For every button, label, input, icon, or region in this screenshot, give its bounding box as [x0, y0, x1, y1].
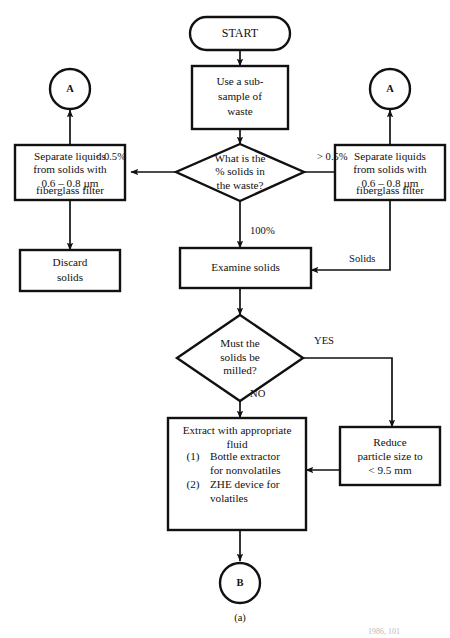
separate-right-line-2: from solids with: [353, 163, 427, 175]
node-extract[interactable]: Extract with appropriate fluid (1) Bottl…: [168, 418, 306, 530]
extract-heading-line-1: Extract with appropriate: [183, 424, 292, 436]
separate-left-line-4: fiberglass filter: [36, 184, 104, 196]
extract-item-1-index: (1): [186, 450, 199, 463]
separate-left-line-2: from solids with: [33, 163, 107, 175]
reduce-line-1: Reduce: [373, 436, 407, 448]
subsample-line-1: Use a sub-: [216, 75, 263, 87]
separate-right-line-4: fiberglass filter: [356, 184, 424, 196]
edge-label-hundred: 100%: [250, 225, 275, 236]
extract-item-1-line-2: for nonvolatiles: [210, 464, 281, 476]
decision-solids-line-3: the waste?: [217, 179, 264, 191]
decision-milled-line-1: Must the: [220, 337, 260, 349]
reduce-line-2: particle size to: [357, 450, 423, 462]
decision-milled-line-3: milled?: [223, 364, 257, 376]
extract-heading-line-2: fluid: [226, 438, 248, 450]
node-separate-right[interactable]: Separate liquids from solids with 0.6 – …: [335, 145, 445, 200]
node-discard[interactable]: Discard solids: [20, 250, 120, 291]
extract-item-1-line-1: Bottle extractor: [210, 450, 280, 462]
node-decision-solids[interactable]: What is the % solids in the waste?: [176, 144, 304, 201]
edge-label-no: NO: [250, 388, 266, 399]
reduce-line-3: < 9.5 mm: [368, 464, 412, 476]
node-subsample[interactable]: Use a sub- sample of waste: [192, 66, 288, 129]
node-connector-bottom[interactable]: B: [220, 563, 260, 603]
extract-item-2-line-2: volatiles: [210, 492, 248, 504]
extract-item-2-line-1: ZHE device for: [210, 478, 280, 490]
node-examine[interactable]: Examine solids: [180, 248, 311, 288]
node-reduce[interactable]: Reduce particle size to < 9.5 mm: [340, 427, 440, 485]
edge-label-solids: Solids: [349, 253, 376, 264]
extract-item-2-index: (2): [186, 478, 199, 491]
subsample-line-2: sample of: [218, 90, 262, 102]
flowchart-figure: START Use a sub- sample of waste A A Sep…: [0, 0, 450, 638]
edge-decision-milled-yes-to-reduce: [303, 358, 392, 427]
discard-line-1: Discard: [53, 256, 88, 268]
examine-label: Examine solids: [211, 261, 280, 273]
node-start[interactable]: START: [190, 17, 290, 50]
node-connector-left[interactable]: A: [50, 69, 90, 109]
node-connector-right[interactable]: A: [370, 69, 410, 109]
subsample-line-3: waste: [227, 105, 253, 117]
edge-label-less-than: < 0.5%: [95, 151, 126, 162]
edge-label-yes: YES: [314, 335, 334, 346]
connector-bottom-label: B: [236, 577, 243, 588]
figure-caption: (a): [234, 612, 246, 624]
discard-line-2: solids: [57, 271, 83, 283]
decision-solids-line-2: % solids in: [215, 165, 265, 177]
start-label: START: [222, 26, 259, 40]
edge-label-greater-than: > 0.5%: [317, 151, 348, 162]
decision-milled-line-2: solids be: [220, 351, 260, 363]
node-decision-milled[interactable]: Must the solids be milled?: [177, 315, 303, 401]
flowchart-canvas: START Use a sub- sample of waste A A Sep…: [0, 0, 450, 638]
connector-right-label: A: [386, 83, 394, 94]
source-note: 1986, 101: [368, 627, 400, 636]
decision-solids-line-1: What is the: [215, 152, 266, 164]
separate-right-line-1: Separate liquids: [354, 150, 426, 162]
connector-left-label: A: [66, 83, 74, 94]
